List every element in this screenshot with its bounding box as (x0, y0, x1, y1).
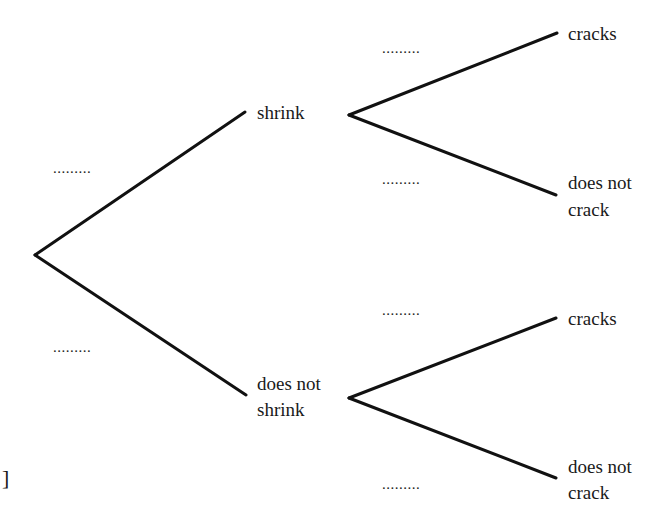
label-does-not-shrink-line1: does not (257, 372, 321, 396)
label-noshrink-does-not-crack-line1: does not (568, 455, 632, 479)
label-shrink-does-not-crack-line1: does not (568, 171, 632, 195)
prob-blank-shrink-does-not-crack[interactable]: ......... (382, 171, 420, 187)
label-shrink: shrink (257, 101, 305, 125)
margin-bracket-mark: ] (2, 466, 9, 490)
prob-blank-noshrink-does-not-crack[interactable]: ......... (382, 476, 420, 492)
prob-blank-noshrink-cracks[interactable]: ......... (382, 302, 420, 318)
label-shrink-cracks: cracks (568, 22, 617, 46)
tree-lines (0, 0, 665, 512)
prob-blank-shrink[interactable]: ......... (53, 160, 91, 176)
branch-noshrink-does-not-crack (349, 398, 556, 478)
label-does-not-shrink-line2: shrink (257, 398, 305, 422)
label-shrink-does-not-crack-line2: crack (568, 198, 609, 222)
branch-shrink-does-not-crack (349, 115, 556, 195)
branch-root-does-not-shrink (35, 255, 246, 395)
branch-noshrink-cracks (349, 318, 556, 398)
branch-shrink-cracks (349, 33, 557, 115)
prob-blank-does-not-shrink[interactable]: ......... (53, 339, 91, 355)
label-noshrink-cracks: cracks (568, 307, 617, 331)
label-noshrink-does-not-crack-line2: crack (568, 481, 609, 505)
branch-root-shrink (35, 112, 245, 255)
prob-blank-shrink-cracks[interactable]: ......... (382, 40, 420, 56)
